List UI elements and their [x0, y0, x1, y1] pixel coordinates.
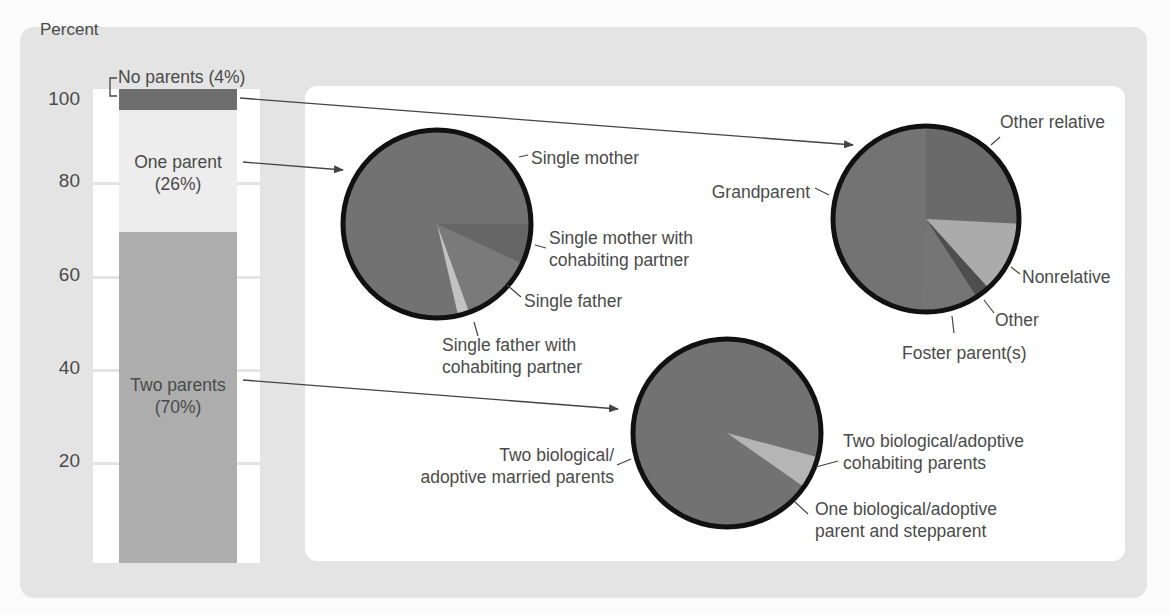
arrow-no-parents: [240, 98, 853, 145]
pie-two-parents: [617, 339, 838, 527]
label-other-relative: Other relative: [1000, 111, 1105, 133]
pie-one-parent: [343, 130, 546, 336]
arrow-one-parent: [243, 162, 343, 170]
label-foster-parents: Foster parent(s): [902, 342, 1026, 364]
label-two-bio-married: Two biological/ adoptive married parents: [380, 444, 614, 488]
label-single-father: Single father: [524, 290, 622, 312]
label-one-bio-stepparent: One biological/adoptive parent and stepp…: [815, 498, 997, 542]
label-single-mother-cohab-line1: Single mother with: [549, 227, 693, 249]
label-one-bio-stepparent-line2: parent and stepparent: [815, 520, 997, 542]
pie-no-parents: [815, 126, 1020, 333]
label-two-bio-married-line2: adoptive married parents: [380, 466, 614, 488]
label-one-bio-stepparent-line1: One biological/adoptive: [815, 498, 997, 520]
label-two-bio-cohab-line1: Two biological/adoptive: [843, 430, 1024, 452]
label-single-mother-cohab-line2: cohabiting partner: [549, 249, 693, 271]
no-parents-bracket: [110, 78, 117, 96]
label-two-bio-cohab: Two biological/adoptive cohabiting paren…: [843, 430, 1024, 474]
label-single-father-cohab-line1: Single father with: [442, 334, 582, 356]
label-single-father-cohab: Single father with cohabiting partner: [442, 334, 582, 378]
label-two-bio-cohab-line2: cohabiting parents: [843, 452, 1024, 474]
arrow-two-parents: [243, 380, 618, 409]
label-single-mother-cohab: Single mother with cohabiting partner: [549, 227, 693, 271]
label-other: Other: [995, 309, 1039, 331]
label-single-mother: Single mother: [531, 147, 639, 169]
label-nonrelative: Nonrelative: [1022, 266, 1111, 288]
label-single-father-cohab-line2: cohabiting partner: [442, 356, 582, 378]
label-two-bio-married-line1: Two biological/: [380, 444, 614, 466]
label-grandparent: Grandparent: [690, 181, 810, 203]
